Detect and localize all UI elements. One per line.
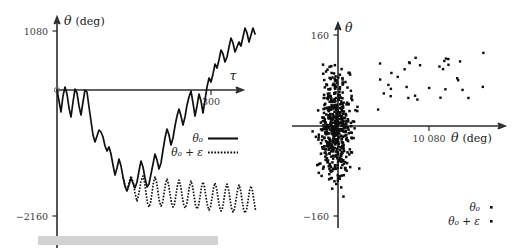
scatter-point [334, 75, 337, 78]
figure-container: 1080 −2160 300 θ(deg) τ θ₀ θ₀ + ε [0, 0, 513, 249]
scatter-point [327, 117, 330, 120]
scatter-point [342, 195, 345, 198]
scatter-point [356, 106, 359, 109]
scatter-point [383, 92, 385, 94]
scatter-point [323, 136, 326, 139]
scatter-point [315, 136, 318, 139]
scatter-point [339, 73, 342, 76]
scatter-point [328, 110, 331, 113]
scatter-point [324, 155, 327, 158]
scatter-point [331, 150, 334, 153]
scatter-point [322, 117, 325, 120]
scatter-point [339, 149, 342, 152]
left-y-ticklabel-top: 1080 [24, 26, 48, 37]
left-y-axis-label: θ(deg) [64, 13, 105, 28]
scatter-point [334, 64, 337, 67]
scatter-point [327, 96, 330, 99]
left-curve-theta0 [57, 28, 255, 191]
scatter-point [328, 178, 331, 181]
scatter-point [318, 136, 321, 139]
right-legend-label-theta0-eps: θ₀ + ε [448, 215, 480, 227]
scatter-point [342, 113, 345, 116]
left-legend-label-theta0: θ₀ [192, 132, 203, 144]
scatter-point [337, 145, 340, 148]
scatter-point [328, 168, 331, 171]
scatter-point [330, 65, 333, 68]
scatter-point [341, 91, 344, 94]
scatter-point [328, 132, 331, 135]
scatter-point [332, 83, 335, 86]
left-x-axis-label: τ [230, 68, 238, 83]
right-scatter-cluster-theta0 [311, 63, 360, 197]
scatter-point [409, 62, 411, 64]
scatter-point [339, 86, 342, 89]
scatter-point [345, 156, 348, 159]
scatter-point [350, 97, 353, 100]
scatter-point [328, 173, 331, 176]
scatter-point [324, 151, 327, 154]
scatter-point [341, 174, 344, 177]
right-panel-legend: θ₀ θ₀ + ε [448, 201, 492, 227]
scatter-point [322, 108, 325, 111]
scatter-point [334, 91, 337, 94]
scatter-point [334, 85, 337, 88]
scatter-point [335, 183, 338, 186]
scatter-point [345, 114, 348, 117]
scatter-point [347, 103, 350, 106]
scatter-point [318, 172, 321, 175]
scatter-point [328, 152, 331, 155]
scatter-point [336, 82, 339, 85]
scatter-point [351, 151, 354, 154]
right-scatter-sparse-theta0-eps [377, 52, 485, 111]
scatter-point [349, 166, 352, 169]
scatter-point [405, 86, 407, 88]
right-x-ticklabel-10080: 10 080 [412, 133, 445, 144]
scatter-point [342, 147, 345, 150]
scatter-point [329, 88, 332, 91]
scatter-point [447, 58, 449, 60]
scatter-point [332, 107, 335, 110]
scatter-point [321, 139, 324, 142]
scatter-point [349, 148, 352, 151]
scatter-point [333, 111, 336, 114]
scatter-point [322, 63, 325, 66]
scatter-point [338, 122, 341, 125]
scatter-point [325, 148, 328, 151]
scatter-point [322, 166, 325, 169]
scatter-point [336, 164, 339, 167]
right-legend-swatch-dot-1 [490, 206, 493, 209]
scatter-point [326, 141, 329, 144]
scatter-point [345, 134, 348, 137]
scatter-point [335, 117, 338, 120]
scatter-point [457, 79, 459, 81]
left-panel-legend: θ₀ θ₀ + ε [171, 132, 238, 158]
right-legend-label-theta0: θ₀ [469, 201, 480, 213]
scatter-point [343, 162, 346, 165]
scatter-point [467, 97, 469, 99]
scatter-point [438, 65, 440, 67]
scatter-point [443, 60, 445, 62]
scatter-point [324, 121, 327, 124]
left-x-axis [54, 87, 243, 95]
scatter-point [345, 122, 348, 125]
scatter-point [332, 113, 335, 116]
scatter-point [344, 167, 347, 170]
scatter-point [322, 73, 325, 76]
scatter-point [336, 133, 339, 136]
scatter-point [343, 127, 346, 130]
scatter-point [336, 106, 339, 109]
scatter-point [333, 98, 336, 101]
scatter-point [333, 137, 336, 140]
left-panel-svg: 1080 −2160 300 θ(deg) τ θ₀ θ₀ + ε [0, 0, 258, 249]
scatter-point [330, 125, 333, 128]
scatter-point [347, 126, 350, 129]
scatter-point [331, 133, 334, 136]
scatter-point [336, 111, 339, 114]
right-y-ticklabel-top: 160 [311, 30, 329, 41]
scatter-point [403, 68, 405, 70]
scatter-point [350, 90, 353, 93]
scatter-point [347, 72, 350, 75]
left-y-ticklabel-bottom: −2160 [16, 211, 48, 222]
scatter-point [333, 72, 336, 75]
scatter-point [340, 68, 343, 71]
